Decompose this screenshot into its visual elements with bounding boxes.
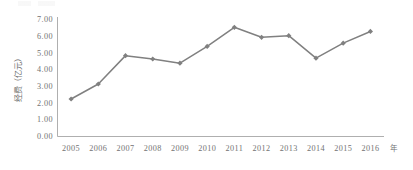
- y-axis-tick-labels: 0.00 1.00 2.00 3.00 4.00 5.00 6.00 7.00: [37, 15, 53, 141]
- x-tick-label-2012: 2012: [253, 144, 271, 153]
- x-tick-label-2016: 2016: [361, 144, 379, 153]
- y-axis-title: 经费（亿元）: [13, 54, 23, 102]
- line-chart-figure: 经费（亿元） 0.00 1.00 2.00 3.00 4.00 5.00 6.0…: [0, 0, 413, 170]
- chart-canvas: 经费（亿元） 0.00 1.00 2.00 3.00 4.00 5.00 6.0…: [0, 0, 413, 170]
- data-point-marker: [259, 35, 264, 40]
- data-point-marker: [150, 56, 155, 61]
- y-tick-label-3: 3.00: [37, 82, 53, 91]
- x-tick-label-2007: 2007: [117, 144, 135, 153]
- x-tick-label-2015: 2015: [334, 144, 352, 153]
- y-tick-label-0: 0.00: [37, 132, 53, 141]
- x-axis-tick-labels: 2005200620072008200920102011201220132014…: [62, 144, 379, 153]
- y-tick-label-7: 7.00: [37, 15, 53, 24]
- y-tick-label-4: 4.00: [37, 65, 53, 74]
- x-tick-label-2010: 2010: [198, 144, 216, 153]
- x-tick-label-2006: 2006: [89, 144, 107, 153]
- y-tick-label-5: 5.00: [37, 49, 53, 58]
- x-tick-label-2013: 2013: [280, 144, 298, 153]
- y-tick-label-1: 1.00: [37, 115, 53, 124]
- data-point-marker: [368, 29, 373, 34]
- x-tick-label-2009: 2009: [171, 144, 189, 153]
- x-tick-label-2014: 2014: [307, 144, 325, 153]
- x-axis-unit-label: 年: [390, 143, 398, 153]
- y-tick-label-6: 6.00: [37, 32, 53, 41]
- x-tick-label-2011: 2011: [226, 144, 244, 153]
- x-tick-label-2005: 2005: [62, 144, 80, 153]
- y-tick-label-2: 2.00: [37, 99, 53, 108]
- x-tick-label-2008: 2008: [144, 144, 162, 153]
- data-series-line: [71, 27, 370, 99]
